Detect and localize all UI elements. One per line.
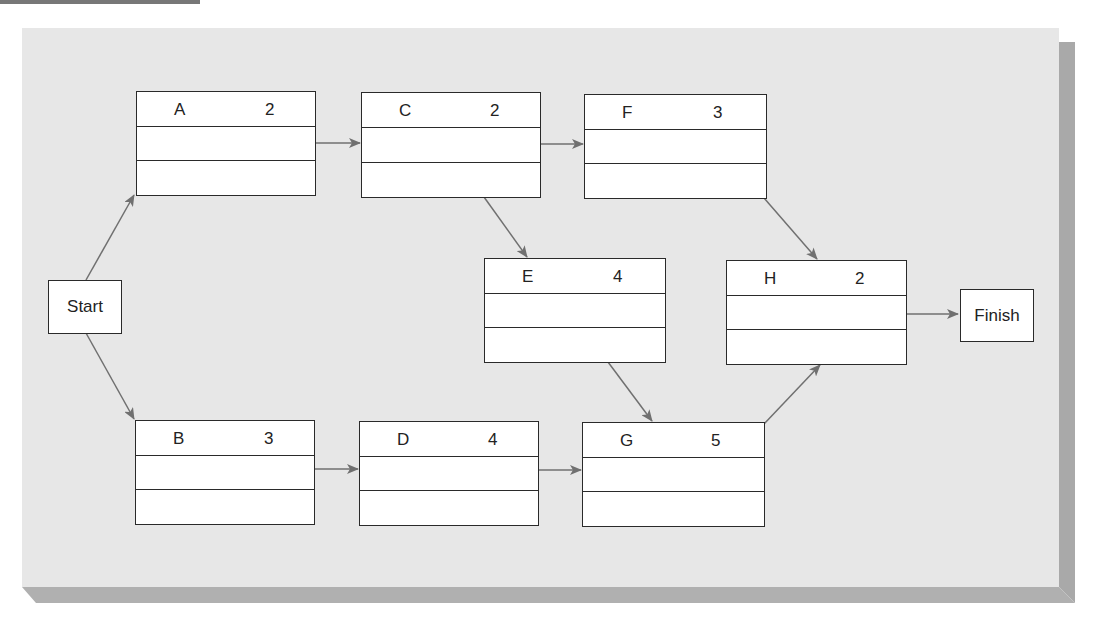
node-label: F: [622, 103, 632, 123]
start-node: Start: [48, 280, 122, 334]
arrow-start-a: [86, 195, 134, 280]
arrow-g-h: [764, 365, 820, 424]
node-row-ls-lf: [362, 162, 540, 197]
node-row-ls-lf: [485, 327, 665, 362]
arrow-e-g: [608, 362, 652, 421]
node-duration: 5: [711, 431, 720, 451]
arrow-start-b: [86, 333, 134, 419]
node-duration: 2: [490, 101, 499, 121]
node-label: E: [522, 267, 533, 287]
node-label: G: [620, 431, 633, 451]
node-e: E4: [484, 258, 666, 363]
node-f: F3: [584, 94, 767, 199]
node-row-es-ef: [727, 295, 906, 330]
node-c: C2: [361, 92, 541, 198]
node-d: D4: [359, 421, 539, 526]
node-label: D: [397, 430, 409, 450]
node-duration: 2: [265, 100, 274, 120]
node-h: H2: [726, 260, 907, 365]
node-row-es-ef: [485, 293, 665, 328]
node-duration: 2: [855, 269, 864, 289]
node-g: G5: [582, 422, 765, 527]
node-duration: 4: [488, 430, 497, 450]
node-row-ls-lf: [583, 491, 764, 526]
node-row-ls-lf: [727, 329, 906, 364]
finish-node: Finish: [960, 289, 1034, 342]
node-label: H: [764, 269, 776, 289]
node-label: A: [174, 100, 185, 120]
node-duration: 4: [613, 267, 622, 287]
node-row-ls-lf: [360, 490, 538, 525]
node-row-es-ef: [583, 457, 764, 492]
node-row-es-ef: [362, 127, 540, 162]
node-b: B3: [135, 420, 315, 525]
node-label: B: [173, 429, 184, 449]
node-duration: 3: [713, 103, 722, 123]
node-a: A2: [136, 91, 316, 196]
node-duration: 3: [264, 429, 273, 449]
node-label: C: [399, 101, 411, 121]
node-row-es-ef: [137, 126, 315, 161]
arrow-c-e: [484, 197, 527, 257]
node-row-es-ef: [360, 456, 538, 491]
node-row-es-ef: [585, 129, 766, 164]
arrow-f-h: [764, 198, 817, 259]
node-row-ls-lf: [137, 160, 315, 195]
node-row-ls-lf: [585, 163, 766, 198]
node-row-es-ef: [136, 455, 314, 490]
node-row-ls-lf: [136, 489, 314, 524]
